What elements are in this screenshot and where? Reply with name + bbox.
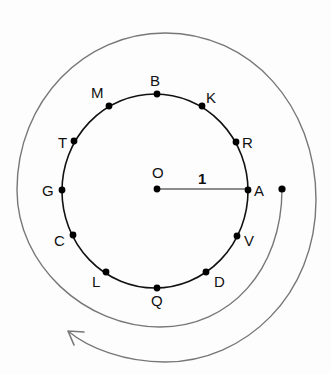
point-Q (154, 285, 161, 292)
point-C (70, 232, 77, 239)
diagram-canvas: O 1 A R K B M T G C L Q D V (0, 0, 331, 374)
point-R (233, 139, 240, 146)
point-T (71, 138, 78, 145)
label-T: T (58, 134, 67, 151)
circle-points: A R K B M T G C L Q D V (42, 72, 264, 309)
label-V: V (244, 232, 254, 249)
label-D: D (214, 273, 225, 290)
point-G (59, 187, 66, 194)
label-R: R (242, 134, 253, 151)
label-K: K (206, 89, 216, 106)
point-V (234, 233, 241, 240)
label-Q: Q (151, 292, 163, 309)
center-dot (154, 186, 161, 193)
unit-circle-figure: O 1 A R K B M T G C L Q D V (0, 0, 331, 374)
label-B: B (150, 72, 160, 89)
label-C: C (54, 232, 65, 249)
point-M (106, 103, 113, 110)
point-K (199, 103, 206, 110)
center-label: O (152, 164, 164, 181)
spiral-start-dot (278, 185, 285, 192)
radius-label: 1 (198, 170, 206, 187)
label-M: M (91, 84, 104, 101)
label-L: L (92, 273, 100, 290)
point-A (245, 187, 252, 194)
label-A: A (254, 182, 264, 199)
point-B (154, 91, 161, 98)
label-G: G (42, 182, 54, 199)
point-D (203, 269, 210, 276)
point-L (103, 269, 110, 276)
